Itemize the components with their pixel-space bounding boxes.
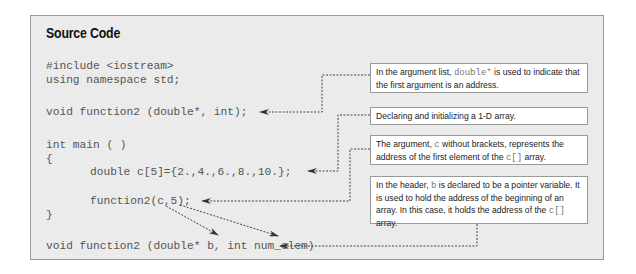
note-code: c[]	[506, 153, 522, 163]
annotation-array-decl: Declaring and initializing a 1-D array.	[370, 107, 588, 125]
note-code: double*	[454, 68, 492, 78]
code-line-function-header: void function2 (double* b, int num_elem)	[46, 240, 315, 253]
note-text: The argument,	[376, 139, 434, 149]
code-line-prototype: void function2 (double*, int);	[46, 106, 247, 119]
panel-title: Source Code	[46, 25, 120, 41]
note-text: In the header,	[376, 180, 431, 190]
code-line-open-brace: {	[46, 153, 53, 166]
annotation-pointer-b: In the header, b is declared to be a poi…	[370, 176, 588, 224]
annotation-double-pointer: In the argument list, double* is used to…	[370, 63, 588, 93]
code-line-include: #include <iostream>	[46, 60, 174, 73]
note-text: array.	[522, 152, 546, 162]
code-line-using: using namespace std;	[46, 74, 180, 87]
note-code: c[]	[549, 206, 565, 216]
note-text: Declaring and initializing a 1-D array.	[376, 111, 516, 121]
note-text: array.	[376, 218, 397, 228]
code-line-array-decl: double c[5]={2.,4.,6.,8.,10.};	[90, 166, 291, 179]
code-line-function-call: function2(c,5);	[90, 195, 191, 208]
code-line-main: int main ( )	[46, 139, 127, 152]
code-line-close-brace: }	[46, 209, 53, 222]
note-text: In the argument list,	[376, 67, 454, 77]
annotation-argument-c: The argument, c without brackets, repres…	[370, 135, 588, 165]
